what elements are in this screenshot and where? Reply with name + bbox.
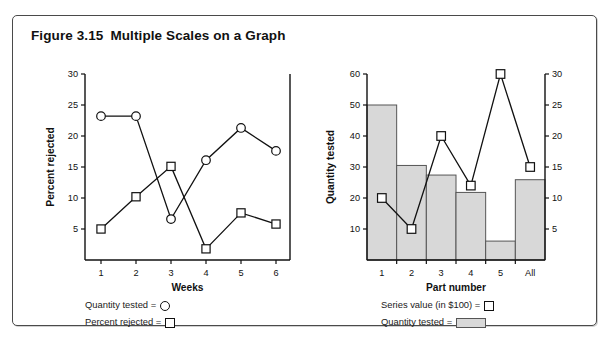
axis-text: 3 — [439, 268, 444, 278]
bar-swatch-icon — [456, 318, 486, 328]
legend-right: Series value (in $100) = Quantity tested… — [381, 297, 494, 331]
data-point-square — [496, 70, 505, 79]
bar — [367, 105, 397, 260]
legend-label: Series value (in $100) = — [381, 300, 480, 311]
axis-text: 4 — [468, 268, 473, 278]
data-point-square — [526, 163, 535, 172]
axis-text: 60 — [350, 69, 360, 79]
axis-text: 5 — [498, 268, 503, 278]
legend-label: Quantity tested = — [85, 300, 156, 311]
axis-text: 20 — [552, 131, 562, 141]
data-point-circle — [167, 215, 176, 224]
bar — [486, 241, 516, 260]
data-point-circle — [97, 112, 106, 121]
legend-item: Quantity tested = — [381, 314, 494, 331]
axis-text: 6 — [273, 268, 278, 278]
circle-marker-icon — [160, 301, 170, 311]
legend-item: Quantity tested = — [85, 297, 175, 314]
axis-text: 25 — [68, 100, 78, 110]
axis-text: 2 — [133, 268, 138, 278]
data-point-circle — [202, 156, 211, 165]
bar — [456, 192, 486, 260]
axis-text: 3 — [168, 268, 173, 278]
data-point-circle — [237, 124, 246, 133]
bar — [397, 165, 427, 260]
figure-title: Figure 3.15Multiple Scales on a Graph — [31, 28, 286, 43]
bar — [515, 180, 545, 260]
data-point-square — [378, 194, 387, 203]
legend-item: Series value (in $100) = — [381, 297, 494, 314]
axis-text: 10 — [552, 193, 562, 203]
axis-text: 15 — [68, 162, 78, 172]
axis-text: 2 — [409, 268, 414, 278]
axis-text: 30 — [552, 69, 562, 79]
axis-text: 40 — [350, 131, 360, 141]
axis-text: 20 — [350, 193, 360, 203]
legend-label: Quantity tested = — [381, 317, 452, 328]
axis-text: 5 — [552, 224, 557, 234]
axis-text: 4 — [203, 268, 208, 278]
chart-left-percent-rejected: 51015202530123456WeeksPercent rejected — [43, 62, 303, 312]
figure-number: Figure 3.15 — [31, 28, 103, 43]
data-point-square — [97, 225, 105, 233]
axis-text: 30 — [350, 162, 360, 172]
data-point-square — [237, 209, 245, 217]
axis-text: Percent rejected — [45, 127, 56, 206]
square-marker-icon — [165, 318, 175, 328]
figure-title-text: Multiple Scales on a Graph — [110, 28, 285, 43]
axis-text: All — [525, 268, 535, 278]
series-line — [101, 166, 276, 248]
axis-text: Quantity tested — [325, 130, 336, 204]
axis-text: Weeks — [171, 282, 203, 293]
axis-text: 5 — [73, 224, 78, 234]
figure-frame: Figure 3.15Multiple Scales on a Graph 51… — [12, 15, 597, 326]
data-point-square — [202, 245, 210, 253]
legend-item: Percent rejected = — [85, 314, 175, 331]
chart-right-quantity-tested: 1020304050605101520253012345AllPart numb… — [323, 62, 588, 312]
axis-text: 20 — [68, 131, 78, 141]
square-marker-icon — [484, 301, 494, 311]
axis-text: 30 — [68, 69, 78, 79]
data-point-square — [407, 225, 416, 234]
right-chart-svg: 1020304050605101520253012345AllPart numb… — [323, 62, 588, 312]
bar — [426, 175, 456, 260]
series-line — [101, 116, 276, 219]
axis-text: 25 — [552, 100, 562, 110]
left-chart-svg: 51015202530123456WeeksPercent rejected — [43, 62, 303, 312]
axis-text: 1 — [379, 268, 384, 278]
axis-text: Part number — [426, 282, 486, 293]
data-point-square — [272, 220, 280, 228]
axis-text: 10 — [68, 193, 78, 203]
data-point-circle — [272, 147, 281, 156]
data-point-square — [437, 132, 446, 141]
legend-label: Percent rejected = — [85, 317, 161, 328]
legend-left: Quantity tested = Percent rejected = — [85, 297, 175, 331]
axis-text: 50 — [350, 100, 360, 110]
data-point-square — [167, 162, 175, 170]
data-point-square — [467, 181, 476, 190]
data-point-circle — [132, 112, 141, 121]
axis-text: 10 — [350, 224, 360, 234]
axis-text: 15 — [552, 162, 562, 172]
axis-text: 1 — [98, 268, 103, 278]
axis-text: 5 — [238, 268, 243, 278]
data-point-square — [132, 193, 140, 201]
